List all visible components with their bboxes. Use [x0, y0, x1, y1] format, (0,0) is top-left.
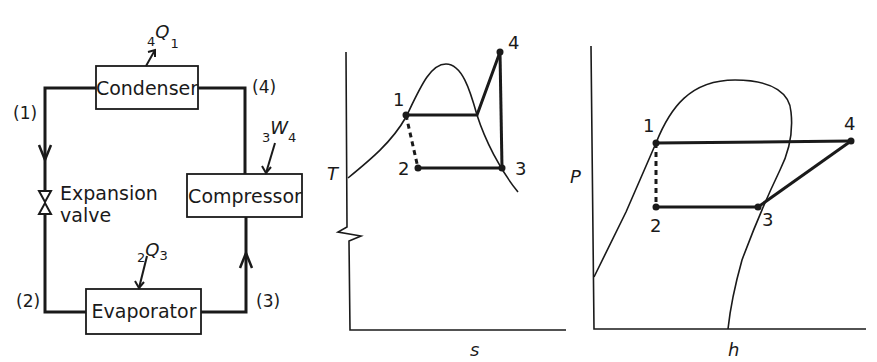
ph-process-3-4 [758, 141, 851, 207]
ph-point-label-4: 4 [844, 113, 855, 134]
ts-point-2 [415, 165, 422, 172]
ph-axes [591, 46, 866, 329]
valve-label-line1: Expansion [60, 182, 158, 204]
ph-point-4 [848, 138, 855, 145]
ph-point-label-2: 2 [650, 215, 661, 236]
ts-point-1 [403, 112, 410, 119]
ph-diagram [591, 46, 866, 329]
ph-x-axis-label: h [728, 339, 739, 360]
compressor-label: Compressor [188, 185, 302, 207]
ph-process-4-1 [656, 141, 851, 143]
ts-diagram [338, 49, 566, 331]
ts-x-axis-label: s [470, 339, 479, 360]
ph-point-2 [653, 204, 660, 211]
heat-out-arrow-icon [146, 50, 155, 66]
work-in-arrow-icon [262, 143, 275, 173]
expansion-valve-icon [39, 191, 51, 214]
state-label-1: (1) [13, 103, 37, 123]
state-label-2: (2) [16, 291, 40, 311]
refrigeration-cycle-figure: Condenser Compressor Evaporator Expansio… [0, 0, 877, 362]
ts-saturation-dome [348, 64, 518, 192]
ph-point-1 [653, 140, 660, 147]
valve-label-line2: valve [60, 204, 111, 226]
ts-point-4 [497, 49, 504, 56]
ts-y-axis [338, 52, 566, 330]
ts-point-label-3: 3 [515, 158, 526, 179]
heat-out-symbol: 4Q1 [147, 21, 179, 51]
work-in-symbol: 3W4 [262, 117, 296, 145]
ph-y-axis-label: P [570, 166, 581, 187]
state-label-3: (3) [256, 291, 280, 311]
ts-point-label-2: 2 [398, 158, 409, 179]
ph-point-label-1: 1 [643, 115, 654, 136]
state-label-4: (4) [252, 77, 276, 97]
heat-in-symbol: 2Q3 [137, 239, 168, 265]
evaporator-label: Evaporator [92, 300, 197, 322]
ts-point-label-4: 4 [508, 32, 519, 53]
ts-process-4-1 [406, 52, 500, 115]
ts-y-axis-label: T [327, 163, 340, 184]
ph-point-3 [755, 204, 762, 211]
condenser-label: Condenser [96, 77, 198, 99]
ts-point-3 [499, 165, 506, 172]
ts-process-3-4 [500, 52, 502, 168]
ts-point-label-1: 1 [393, 89, 404, 110]
ph-point-label-3: 3 [762, 209, 773, 230]
